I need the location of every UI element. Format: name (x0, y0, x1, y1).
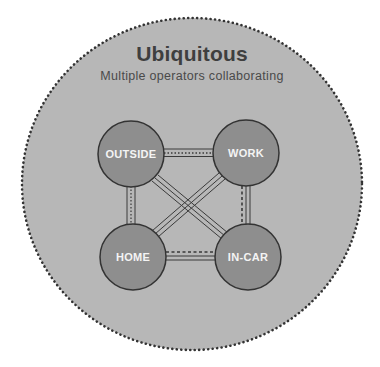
diagram-title: Ubiquitous (0, 42, 380, 66)
node-label-in-car: IN-CAR (208, 251, 288, 263)
node-label-work: WORK (206, 147, 286, 159)
node-label-outside: OUTSIDE (91, 148, 171, 160)
outer-circle (22, 18, 362, 350)
node-label-home: HOME (93, 251, 173, 263)
ubiquitous-diagram: Ubiquitous Multiple operators collaborat… (0, 0, 380, 367)
diagram-subtitle: Multiple operators collaborating (0, 69, 380, 83)
